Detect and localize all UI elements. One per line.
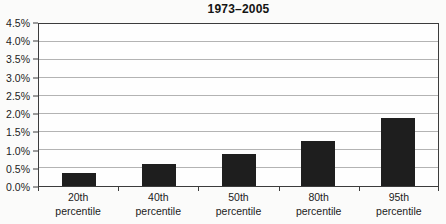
- y-tick-label: 4.0%: [6, 35, 30, 47]
- x-category-label: 40th percentile: [118, 191, 198, 218]
- y-tick-label: 2.0%: [6, 108, 30, 120]
- gridline: [39, 149, 438, 150]
- plot-area: [38, 23, 439, 187]
- y-tick-label: 1.5%: [6, 126, 30, 138]
- x-axis-labels: 20th percentile40th percentile50th perce…: [38, 191, 439, 218]
- y-tick: [33, 95, 38, 96]
- gridline: [39, 59, 438, 60]
- y-tick: [33, 59, 38, 60]
- y-tick-label: 0.5%: [6, 163, 30, 175]
- y-tick-label: 1.0%: [6, 145, 30, 157]
- gridline: [39, 95, 438, 96]
- chart-title: 1973–2005: [38, 2, 439, 16]
- bar: [301, 141, 335, 186]
- y-tick: [33, 150, 38, 151]
- bar: [381, 118, 415, 186]
- bar: [142, 164, 176, 186]
- x-category-label-text: 80th percentile: [291, 191, 347, 218]
- y-tick-label: 2.5%: [6, 90, 30, 102]
- y-tick-label: 4.5%: [6, 17, 30, 29]
- y-tick: [33, 23, 38, 24]
- y-tick: [33, 168, 38, 169]
- x-category-label-text: 50th percentile: [210, 191, 266, 218]
- y-tick-label: 0.0%: [6, 181, 30, 193]
- y-tick-label: 3.5%: [6, 53, 30, 65]
- x-category-label-text: 95th percentile: [371, 191, 427, 218]
- x-category-label: 20th percentile: [38, 191, 118, 218]
- x-category-label: 80th percentile: [279, 191, 359, 218]
- y-tick: [33, 77, 38, 78]
- bar-chart-figure: 1973–2005 4.5%4.0%3.5%3.0%2.5%2.0%1.5%1.…: [0, 0, 446, 224]
- gridline: [39, 113, 438, 114]
- x-category-label-text: 40th percentile: [130, 191, 186, 218]
- gridline: [39, 131, 438, 132]
- y-tick: [33, 41, 38, 42]
- bar: [222, 154, 256, 186]
- x-category-label: 95th percentile: [359, 191, 439, 218]
- gridline: [39, 77, 438, 78]
- x-category-label-text: 20th percentile: [50, 191, 106, 218]
- bar: [62, 173, 96, 186]
- y-tick-label: 3.0%: [6, 72, 30, 84]
- y-axis: 4.5%4.0%3.5%3.0%2.5%2.0%1.5%1.0%0.5%0.0%: [0, 23, 38, 187]
- gridline: [39, 41, 438, 42]
- x-category-label: 50th percentile: [198, 191, 278, 218]
- y-tick: [33, 114, 38, 115]
- y-tick: [33, 132, 38, 133]
